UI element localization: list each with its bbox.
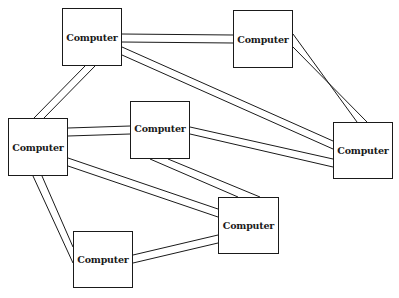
node-label: Computer [223,220,274,231]
edge-c-b [68,126,130,136]
node-label: Computer [12,142,63,153]
node-label: Computer [237,34,288,45]
node-label: Computer [66,32,117,43]
network-diagram: Computer Computer Computer Computer Comp… [0,0,399,298]
computer-node-e: Computer [333,122,393,179]
edge-d-e [293,34,367,122]
node-label: Computer [134,123,185,134]
computer-node-b: Computer [130,101,190,159]
computer-node-c: Computer [8,118,68,176]
edge-a-d [122,34,233,43]
computer-node-f: Computer [73,231,133,288]
node-label: Computer [77,254,128,265]
edge-f-g [133,235,218,263]
node-label: Computer [337,145,388,156]
edge-c-f [33,176,73,263]
computer-node-d: Computer [233,10,293,68]
edge-b-e [190,127,333,167]
computer-node-g: Computer [218,197,279,254]
edge-c-g [68,158,218,217]
computer-node-a: Computer [62,8,122,66]
edge-a-c [34,66,95,118]
